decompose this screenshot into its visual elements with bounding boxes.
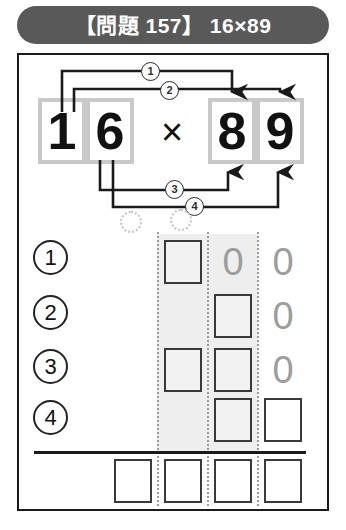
column-divider	[207, 232, 209, 506]
answer-box-tens[interactable]	[214, 459, 252, 503]
row-label-1: 1	[33, 240, 68, 275]
multiplicand-ones-digit: 9	[256, 98, 304, 164]
work-box-r4-ones[interactable]	[264, 398, 302, 442]
multiplicand-tens-digit: 8	[208, 98, 256, 164]
carry-circle-icon	[170, 209, 192, 231]
printed-zero-r3-ones: 0	[264, 348, 302, 392]
row-label-3: 3	[33, 349, 68, 384]
printed-zero-r2-ones: 0	[264, 294, 302, 338]
sum-rule-line	[34, 451, 306, 454]
problem-header-badge: 【問題 157】 16×89	[17, 6, 329, 44]
work-box-r3-hundreds[interactable]	[164, 348, 202, 392]
arrow-badge-2: 2	[160, 81, 179, 100]
column-divider	[257, 232, 259, 506]
answer-box-thousands[interactable]	[114, 459, 152, 503]
work-box-r3-tens[interactable]	[214, 348, 252, 392]
printed-zero-r1-ones: 0	[264, 240, 302, 284]
carry-circle-icon	[120, 211, 142, 233]
printed-zero-r1-tens: 0	[214, 240, 252, 284]
row-label-4: 4	[33, 400, 68, 435]
problem-title: 【問題 157】 16×89	[75, 15, 272, 36]
multiplication-sign: ×	[152, 112, 192, 152]
answer-box-ones[interactable]	[264, 459, 302, 503]
multiplier-ones-digit: 6	[86, 98, 134, 164]
work-box-r4-tens[interactable]	[214, 398, 252, 442]
row-label-2: 2	[33, 295, 68, 330]
work-box-r2-tens[interactable]	[214, 294, 252, 338]
column-divider	[157, 232, 159, 506]
arrow-badge-1: 1	[141, 62, 160, 81]
work-box-r1-hundreds[interactable]	[164, 240, 202, 284]
answer-box-hundreds[interactable]	[164, 459, 202, 503]
multiplier-tens-digit: 1	[38, 98, 86, 164]
arrow-badge-3: 3	[165, 180, 184, 199]
